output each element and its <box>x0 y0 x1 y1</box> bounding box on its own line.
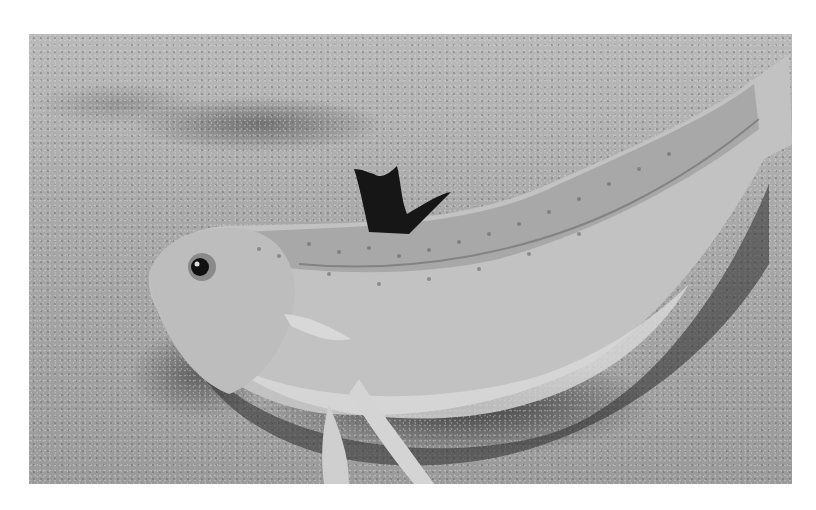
fish-illustration <box>29 34 792 484</box>
fish-photo <box>29 34 792 484</box>
fish-eye <box>191 258 209 276</box>
